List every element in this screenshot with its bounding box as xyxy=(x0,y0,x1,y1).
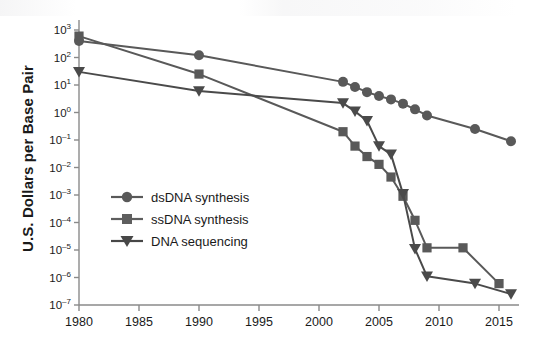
series-triangle xyxy=(73,67,517,300)
circle-marker-icon xyxy=(110,188,144,206)
plot-area xyxy=(0,0,544,350)
chart-figure: U.S. Dollars per Base Pair 1031021011001… xyxy=(0,0,544,350)
series-circle xyxy=(74,36,516,146)
legend-item-dsdna: dsDNA synthesis xyxy=(110,186,249,208)
legend-label-dsdna: dsDNA synthesis xyxy=(151,190,249,205)
legend-item-ssdna: ssDNA synthesis xyxy=(110,208,249,230)
square-marker-icon xyxy=(110,210,144,228)
legend-item-sequencing: DNA sequencing xyxy=(110,230,249,252)
triangle-marker-icon xyxy=(110,232,144,250)
chart-legend: dsDNA synthesis ssDNA synthesis DNA sequ… xyxy=(110,186,249,252)
axis-lines xyxy=(79,20,519,305)
legend-label-ssdna: ssDNA synthesis xyxy=(151,212,249,227)
legend-label-sequencing: DNA sequencing xyxy=(151,234,248,249)
